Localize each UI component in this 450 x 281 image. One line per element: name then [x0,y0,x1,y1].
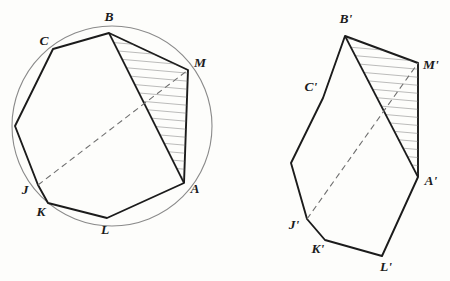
vertex-label-C: C [39,33,49,48]
vertex-label-M: M [193,55,207,70]
vertex-label-J: J [21,182,30,197]
vertex-label-K-prime: K' [311,241,325,256]
vertex-label-A: A [189,181,199,196]
vertex-label-B: B [103,9,113,24]
vertex-label-J-prime: J' [288,217,300,232]
geometry-figure: BMALKJC B'M'A'L'K'J'C' [0,0,450,281]
vertex-label-L-prime: L' [379,259,392,274]
vertex-label-L: L [100,222,109,237]
vertex-label-M-prime: M' [422,57,439,72]
diagram-canvas: BMALKJC B'M'A'L'K'J'C' [0,0,450,281]
vertex-label-B-prime: B' [339,11,353,26]
vertex-label-C-prime: C' [305,79,318,94]
vertex-label-A-prime: A' [424,173,438,188]
vertex-label-K: K [35,204,46,219]
